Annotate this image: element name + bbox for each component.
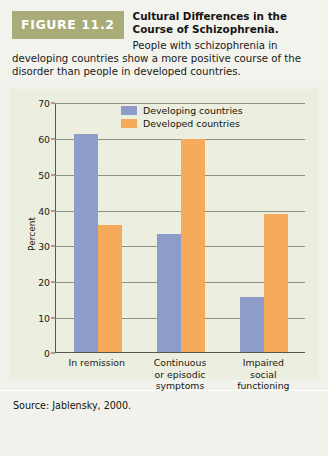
bar-developed-3: [264, 214, 288, 352]
x-category-label-2: Continuousor episodicsymptoms: [138, 357, 221, 391]
x-axis-line: [55, 352, 305, 354]
y-tick-mark-10: [51, 317, 55, 318]
chart-panel: Percent 010203040506070 Developing count…: [9, 89, 319, 379]
bar-group-3: [222, 103, 305, 352]
x-category-line: social: [222, 369, 305, 380]
y-tick-mark-70: [51, 103, 55, 104]
bar-developed-2: [181, 139, 205, 352]
figure-title-line-1: Cultural Differences in the: [133, 10, 316, 23]
y-tick-mark-0: [51, 353, 55, 354]
bar-developed-1: [98, 225, 122, 352]
figure-header-top: FIGURE 11.2 Cultural Differences in the …: [12, 10, 316, 52]
x-category-label-3: Impairedsocialfunctioning: [222, 357, 305, 391]
y-tick-label-10: 10: [38, 312, 50, 323]
y-tick-mark-60: [51, 139, 55, 140]
figure-caption-line-3: disorder than people in developed countr…: [12, 65, 316, 78]
y-tick-label-70: 70: [38, 98, 50, 109]
y-tick-label-20: 20: [38, 276, 50, 287]
x-category-line: or episodic: [138, 369, 221, 380]
figure-source: Source: Jablensky, 2000.: [0, 391, 328, 411]
chart-legend: Developing countries Developed countries: [121, 105, 243, 131]
y-tick-label-0: 0: [44, 348, 50, 359]
x-category-line: symptoms: [138, 380, 221, 391]
bar-developing-2: [157, 234, 181, 352]
y-tick-label-30: 30: [38, 241, 50, 252]
x-category-line: Continuous: [138, 357, 221, 368]
legend-label-developing: Developing countries: [143, 105, 243, 116]
x-category-line: functioning: [222, 380, 305, 391]
plot-wrapper: Percent 010203040506070 Developing count…: [9, 89, 319, 379]
legend-item-developing: Developing countries: [121, 105, 243, 116]
y-tick-mark-40: [51, 210, 55, 211]
legend-label-developed: Developed countries: [143, 118, 240, 129]
x-category-label-1: In remission: [55, 357, 138, 391]
y-tick-mark-20: [51, 281, 55, 282]
legend-swatch-developing-icon: [121, 106, 137, 115]
legend-swatch-developed-icon: [121, 119, 137, 128]
bar-developing-1: [74, 134, 98, 352]
figure-caption-line-1: People with schizophrenia in: [133, 39, 316, 52]
figure-number-badge: FIGURE 11.2: [12, 11, 124, 39]
x-axis-category-labels: In remissionContinuousor episodicsymptom…: [55, 357, 305, 391]
bar-developing-3: [240, 297, 264, 352]
x-category-line: Impaired: [222, 357, 305, 368]
figure-card: FIGURE 11.2 Cultural Differences in the …: [0, 0, 328, 456]
x-category-line: In remission: [55, 357, 138, 368]
figure-title-block: Cultural Differences in the Course of Sc…: [133, 10, 316, 52]
y-tick-label-40: 40: [38, 205, 50, 216]
bars-group: [56, 103, 305, 352]
figure-header: FIGURE 11.2 Cultural Differences in the …: [0, 0, 328, 82]
y-tick-mark-30: [51, 246, 55, 247]
y-tick-label-60: 60: [38, 134, 50, 145]
figure-caption-line-2: developing countries show a more positiv…: [12, 52, 316, 65]
legend-item-developed: Developed countries: [121, 118, 243, 129]
bar-group-1: [56, 103, 139, 352]
y-tick-label-50: 50: [38, 169, 50, 180]
bar-group-2: [139, 103, 222, 352]
figure-title-line-2: Course of Schizophrenia.: [133, 23, 316, 36]
y-tick-mark-50: [51, 174, 55, 175]
plot-area: 010203040506070: [55, 103, 305, 353]
y-axis-title: Percent: [27, 217, 37, 251]
